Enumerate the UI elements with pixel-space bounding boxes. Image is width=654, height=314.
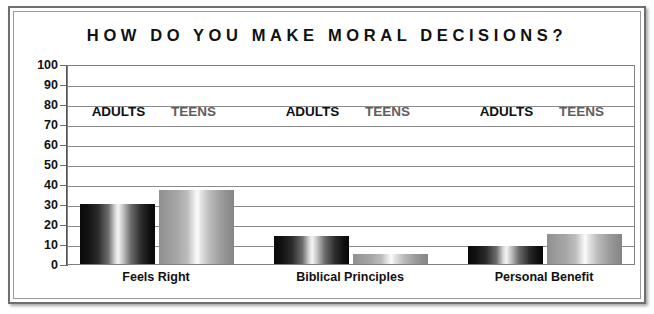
chart-figure-frame: HOW DO YOU MAKE MORAL DECISIONS? 1009080… — [8, 6, 646, 304]
series-label-adults-3: ADULTS — [469, 104, 544, 119]
y-tick-label-90: 90 — [24, 79, 58, 92]
y-tick-label-70: 70 — [24, 119, 58, 132]
y-tick-label-20: 20 — [24, 219, 58, 232]
y-tick-label-0: 0 — [24, 259, 58, 272]
chart-title: HOW DO YOU MAKE MORAL DECISIONS? — [10, 26, 644, 45]
y-tick-mark-20 — [60, 225, 67, 226]
series-label-adults-2: ADULTS — [275, 104, 350, 119]
y-tick-mark-40 — [60, 185, 67, 186]
gridline-60 — [68, 146, 634, 147]
y-tick-label-30: 30 — [24, 199, 58, 212]
series-label-teens-2: TEENS — [350, 104, 425, 119]
y-tick-mark-100 — [60, 65, 67, 66]
plot-area — [67, 65, 635, 265]
y-tick-mark-60 — [60, 145, 67, 146]
y-tick-label-40: 40 — [24, 179, 58, 192]
bar-teens-personal-benefit — [547, 234, 622, 264]
series-label-teens-3: TEENS — [544, 104, 619, 119]
y-tick-label-60: 60 — [24, 139, 58, 152]
bar-adults-feels-right — [80, 204, 155, 264]
y-tick-label-80: 80 — [24, 99, 58, 112]
category-label-personal-benefit: Personal Benefit — [454, 270, 634, 284]
gridline-90 — [68, 86, 634, 87]
y-tick-label-100: 100 — [24, 59, 58, 72]
y-tick-label-10: 10 — [24, 239, 58, 252]
gridline-50 — [68, 166, 634, 167]
gridline-70 — [68, 126, 634, 127]
y-tick-mark-50 — [60, 165, 67, 166]
bar-adults-biblical-principles — [274, 236, 349, 264]
y-tick-mark-90 — [60, 85, 67, 86]
y-tick-mark-30 — [60, 205, 67, 206]
y-tick-mark-10 — [60, 245, 67, 246]
bar-teens-biblical-principles — [353, 254, 428, 264]
y-tick-mark-70 — [60, 125, 67, 126]
category-label-feels-right: Feels Right — [66, 270, 246, 284]
gridline-40 — [68, 186, 634, 187]
bar-adults-personal-benefit — [468, 246, 543, 264]
series-label-teens-1: TEENS — [156, 104, 231, 119]
series-label-adults-1: ADULTS — [81, 104, 156, 119]
y-tick-label-50: 50 — [24, 159, 58, 172]
bar-teens-feels-right — [159, 190, 234, 264]
y-tick-mark-0 — [60, 265, 67, 266]
y-tick-mark-80 — [60, 105, 67, 106]
category-label-biblical-principles: Biblical Principles — [260, 270, 440, 284]
